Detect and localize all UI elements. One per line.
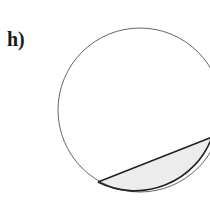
circle-segment-diagram [0,0,210,200]
